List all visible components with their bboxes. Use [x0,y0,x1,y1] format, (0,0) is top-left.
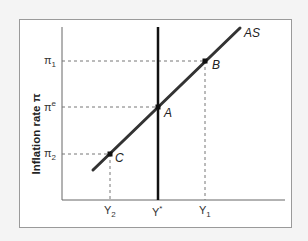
y-axis-label: Inflation rate π [30,93,42,174]
y-tick-pi-e: πe [44,100,56,113]
x-tick-y-1: Y1 [199,205,211,219]
point-b-label: B [212,59,220,71]
point-a-marker [156,105,161,110]
point-c-marker [108,152,113,157]
as-curve [93,28,240,170]
x-tick-y-star: Y* [152,205,162,218]
as-curve-label: AS [244,27,260,39]
y-tick-pi-2: π2 [44,148,56,162]
point-a-label: A [164,107,172,119]
point-c-label: C [115,152,124,164]
x-tick-y-2: Y2 [104,205,116,219]
point-b-marker [203,59,208,64]
y-tick-pi-1: π1 [44,55,56,69]
